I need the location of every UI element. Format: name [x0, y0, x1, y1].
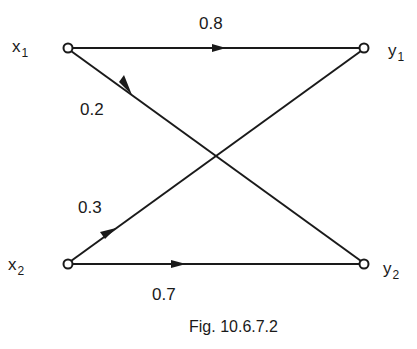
- edge-weight-x2-y1: 0.3: [78, 199, 102, 216]
- node-x1-icon: [64, 44, 73, 53]
- arrow-x1-y2-icon: [119, 75, 132, 95]
- node-label-y2: y2: [383, 260, 399, 277]
- node-label-x1: x1: [12, 38, 28, 55]
- channel-diagram: [0, 0, 417, 349]
- node-y2-icon: [360, 260, 369, 269]
- node-label-x2: x2: [8, 256, 24, 273]
- arrow-x1-y1-icon: [212, 44, 226, 52]
- edge-weight-x2-y2: 0.7: [152, 286, 176, 303]
- node-y1-icon: [360, 44, 369, 53]
- edge-weight-x1-y1: 0.8: [199, 15, 223, 32]
- node-x2-icon: [64, 260, 73, 269]
- arrow-x2-y2-icon: [171, 260, 186, 268]
- edge-weight-x1-y2: 0.2: [80, 101, 104, 118]
- node-label-y1: y1: [388, 42, 404, 59]
- figure-caption: Fig. 10.6.7.2: [0, 318, 417, 336]
